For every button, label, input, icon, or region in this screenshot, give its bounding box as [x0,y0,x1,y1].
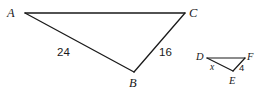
vertex-label-b: B [129,77,137,90]
vertex-label-e: E [229,76,235,87]
vertex-label-a: A [7,7,15,20]
triangle-abc-shape [25,13,185,72]
side-length-ef: 4 [239,63,244,73]
side-length-bc: 16 [159,47,172,59]
vertex-label-d: D [196,52,204,63]
vertex-label-f: F [247,52,253,63]
vertex-label-c: C [189,7,197,20]
side-length-ab: 24 [57,47,70,59]
side-length-de: x [210,63,214,73]
similar-triangles-diagram: A C B 24 16 D F E x 4 [0,0,263,93]
segment-AB [25,13,134,72]
segment-BC [134,13,185,72]
